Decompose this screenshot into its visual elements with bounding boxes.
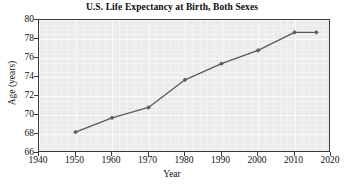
x-tick-mark <box>184 152 185 156</box>
data-point-marker <box>314 30 318 34</box>
y-tick-mark <box>34 133 38 134</box>
x-axis-label: Year <box>0 169 344 179</box>
x-tick-label: 1960 <box>91 155 131 166</box>
x-tick-label: 1990 <box>201 155 241 166</box>
x-tick-label: 2010 <box>274 155 314 166</box>
x-tick-mark <box>257 152 258 156</box>
chart-figure: U.S. Life Expectancy at Birth, Both Sexe… <box>0 0 344 187</box>
y-tick-mark <box>34 114 38 115</box>
x-tick-mark <box>330 152 331 156</box>
x-tick-label: 1940 <box>18 155 58 166</box>
y-axis-label: Age (years) <box>7 33 17 133</box>
x-tick-mark <box>111 152 112 156</box>
x-tick-label: 2020 <box>310 155 344 166</box>
data-point-marker <box>220 62 224 66</box>
data-point-marker <box>74 130 78 134</box>
x-tick-mark <box>38 152 39 156</box>
x-tick-mark <box>294 152 295 156</box>
x-tick-mark <box>221 152 222 156</box>
chart-title: U.S. Life Expectancy at Birth, Both Sexe… <box>0 2 344 12</box>
x-tick-label: 1970 <box>128 155 168 166</box>
plot-area <box>38 19 330 152</box>
y-tick-mark <box>34 38 38 39</box>
x-tick-mark <box>75 152 76 156</box>
y-tick-mark <box>34 76 38 77</box>
y-tick-label: 80 <box>2 14 34 24</box>
data-point-marker <box>110 116 114 120</box>
x-tick-mark <box>148 152 149 156</box>
y-tick-mark <box>34 57 38 58</box>
data-series-line <box>39 20 330 152</box>
y-tick-mark <box>34 19 38 20</box>
y-tick-mark <box>34 95 38 96</box>
x-tick-label: 1980 <box>164 155 204 166</box>
x-tick-label: 2000 <box>237 155 277 166</box>
x-tick-label: 1950 <box>55 155 95 166</box>
